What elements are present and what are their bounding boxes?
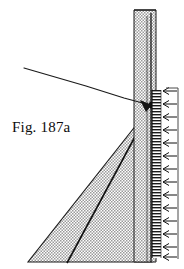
pressure-arrow — [163, 140, 177, 147]
pressure-arrow — [163, 244, 177, 251]
ground-surface-line — [24, 68, 150, 105]
figure-caption: Fig. 187a — [12, 119, 70, 135]
pressure-arrow — [163, 114, 177, 121]
pressure-arrow — [163, 166, 177, 173]
figure-container: Fig. 187a — [0, 0, 184, 269]
pressure-arrow — [163, 101, 177, 108]
pressure-distribution-arrows — [163, 88, 177, 261]
pressure-arrow — [163, 254, 177, 261]
pressure-arrow — [163, 218, 177, 225]
pressure-arrow — [163, 231, 177, 238]
pressure-arrow — [163, 205, 177, 212]
pressure-arrow — [163, 192, 177, 199]
pressure-arrow — [163, 88, 177, 95]
pressure-arrow — [163, 153, 177, 160]
pressure-tail-band — [152, 90, 161, 258]
pressure-arrow — [163, 127, 177, 134]
pressure-arrow — [163, 179, 177, 186]
